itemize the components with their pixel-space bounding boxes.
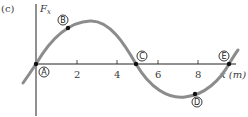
svg-text:C: C (139, 52, 145, 61)
svg-text:D: D (194, 98, 200, 107)
y-axis-label: Fx (39, 3, 51, 16)
tick-label: 6 (155, 69, 161, 80)
svg-text:B: B (60, 16, 66, 25)
tick-label: 2 (74, 69, 80, 80)
point-b: B (58, 15, 70, 30)
tick-label: 4 (114, 69, 120, 80)
tick-label: 8 (195, 69, 201, 80)
force-curve (23, 21, 238, 97)
svg-text:A: A (41, 68, 47, 77)
force-position-graph: (c) Fx x (m) 2 4 6 8 A B C D (0, 0, 248, 117)
svg-text:E: E (221, 52, 226, 61)
panel-label: (c) (1, 3, 15, 14)
